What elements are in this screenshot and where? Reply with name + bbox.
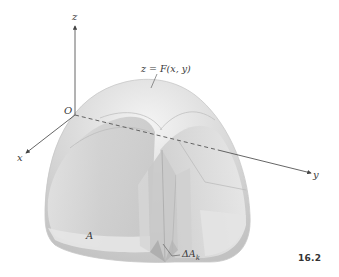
z-axis-label: z [72,12,77,22]
origin-label: O [64,106,72,116]
region-a-label: A [86,231,93,241]
surface-label: z = F(x, y) [141,64,191,74]
delta-ak-label: ΔAk [182,249,200,262]
figure-16-2: z x y O z = F(x, y) A ΔAk 16.2 [0,0,339,277]
figure-number: 16.2 [298,253,321,263]
x-axis-label: x [17,153,23,163]
paraboloid-diagram [0,0,339,277]
y-axis-label: y [313,170,319,180]
